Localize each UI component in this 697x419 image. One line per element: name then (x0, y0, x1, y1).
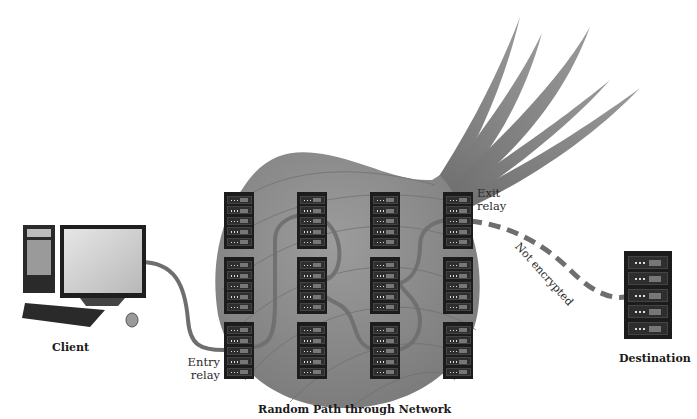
entry-relay-label-line2: relay (184, 369, 220, 382)
client-cable (140, 262, 224, 350)
relay-rack (297, 322, 327, 379)
destination-server (624, 251, 672, 339)
onion-bulb (215, 152, 479, 408)
relay-rack (224, 192, 254, 249)
exit-relay-label: Exit relay (477, 187, 506, 213)
monitor-screen (64, 229, 142, 293)
exit-relay-rack (443, 192, 473, 249)
diagram-canvas (0, 0, 697, 419)
onion-stalk (430, 17, 640, 210)
relay-rack (224, 257, 254, 314)
exit-relay-label-line2: relay (477, 200, 506, 213)
relay-rack (443, 322, 473, 379)
client-computer (22, 225, 146, 327)
entry-relay-label: Entry relay (184, 356, 220, 382)
relay-rack (370, 257, 400, 314)
relay-rack (297, 192, 327, 249)
keyboard (22, 303, 105, 327)
relay-rack (370, 192, 400, 249)
mouse (126, 313, 138, 327)
tor-onion-routing-diagram: Client Destination Random Path through N… (0, 0, 697, 419)
entry-relay-rack (224, 322, 254, 379)
relay-rack (370, 322, 400, 379)
destination-label: Destination (619, 352, 691, 365)
relay-rack (297, 257, 327, 314)
diagram-title: Random Path through Network (258, 403, 451, 416)
relay-rack (443, 257, 473, 314)
client-label: Client (52, 341, 89, 354)
